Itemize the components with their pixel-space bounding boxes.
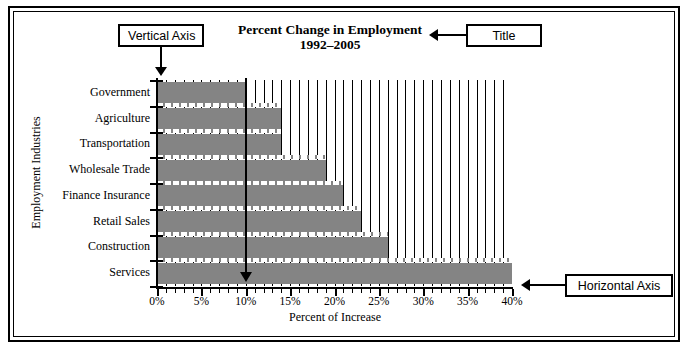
x-axis-minor-tick bbox=[184, 289, 185, 293]
x-axis-minor-tick bbox=[477, 289, 478, 293]
x-axis-minor-tick bbox=[255, 289, 256, 293]
x-axis-minor-tick bbox=[485, 289, 486, 293]
callout-horizontal-axis: Horizontal Axis bbox=[565, 274, 673, 297]
bar bbox=[157, 237, 388, 258]
bar bbox=[157, 211, 361, 232]
x-axis-minor-tick bbox=[503, 289, 504, 293]
x-axis-minor-tick bbox=[397, 289, 398, 293]
x-axis-minor-tick bbox=[459, 289, 460, 293]
gridline bbox=[494, 80, 495, 286]
gridline bbox=[441, 80, 442, 286]
x-axis-minor-tick bbox=[370, 289, 371, 293]
x-axis-minor-tick bbox=[228, 289, 229, 293]
callout-vertical-axis: Vertical Axis bbox=[118, 24, 204, 47]
title-arrow-head bbox=[429, 29, 438, 41]
y-axis-tick bbox=[150, 260, 163, 262]
x-axis-tick-label: 35% bbox=[448, 295, 488, 307]
x-axis-minor-tick bbox=[175, 289, 176, 293]
x-axis-tick-label: 5% bbox=[181, 295, 221, 307]
y-axis-tick bbox=[150, 80, 163, 82]
y-axis-category-label: Retail Sales bbox=[0, 214, 150, 229]
x-axis-tick-label: 10% bbox=[226, 295, 266, 307]
x-axis-minor-tick bbox=[441, 289, 442, 293]
bar bbox=[157, 82, 246, 103]
x-axis-minor-tick bbox=[352, 289, 353, 293]
y-axis-category-label: Wholesale Trade bbox=[0, 162, 150, 177]
y-axis-tick bbox=[150, 157, 163, 159]
bar-separator bbox=[157, 206, 361, 210]
y-axis-title: Employment Industries bbox=[29, 73, 44, 273]
vertical-axis-arrow-head bbox=[155, 67, 167, 76]
y-axis-tick bbox=[150, 209, 163, 211]
gridline bbox=[397, 80, 398, 286]
horizontal-axis-arrow-line bbox=[530, 284, 566, 286]
y-axis-tick bbox=[150, 106, 163, 108]
x-axis-minor-tick bbox=[272, 289, 273, 293]
bar-separator bbox=[157, 103, 281, 107]
x-axis-tick-label: 40% bbox=[492, 295, 532, 307]
x-axis-tick-label: 20% bbox=[315, 295, 355, 307]
bar bbox=[157, 160, 326, 181]
x-axis-minor-tick bbox=[326, 289, 327, 293]
gridline bbox=[432, 80, 433, 286]
x-axis-minor-tick bbox=[343, 289, 344, 293]
x-axis-minor-tick bbox=[299, 289, 300, 293]
gridline bbox=[459, 80, 460, 286]
x-axis-minor-tick bbox=[450, 289, 451, 293]
x-axis-minor-tick bbox=[166, 289, 167, 293]
chart-title: Percent Change in Employment 1992–2005 bbox=[215, 22, 445, 52]
y-axis-category-label: Services bbox=[0, 265, 150, 280]
gridline bbox=[388, 80, 389, 286]
y-axis-category-label: Agriculture bbox=[0, 111, 150, 126]
x-axis-minor-tick bbox=[406, 289, 407, 293]
vertical-axis-arrow-line bbox=[160, 47, 162, 69]
x-axis-minor-tick bbox=[210, 289, 211, 293]
bar bbox=[157, 134, 281, 155]
bar-separator bbox=[157, 155, 326, 159]
gridline bbox=[450, 80, 451, 286]
chart-figure: Percent Change in Employment 1992–2005 0… bbox=[0, 0, 688, 349]
y-axis-tick bbox=[150, 132, 163, 134]
bar-separator bbox=[157, 258, 512, 262]
y-axis-category-label: Transportation bbox=[0, 136, 150, 151]
x-axis-tick-label: 30% bbox=[403, 295, 443, 307]
gridline bbox=[468, 80, 469, 286]
x-axis-tick-label: 25% bbox=[359, 295, 399, 307]
plot-pointer-arrow-line bbox=[245, 78, 247, 274]
gridline bbox=[405, 80, 406, 286]
horizontal-axis-arrow-head bbox=[521, 279, 530, 291]
gridline bbox=[503, 80, 504, 286]
callout-title: Title bbox=[466, 24, 542, 47]
y-axis-tick bbox=[150, 183, 163, 185]
plot-area bbox=[157, 80, 512, 286]
y-axis-category-label: Government bbox=[0, 85, 150, 100]
x-axis-minor-tick bbox=[432, 289, 433, 293]
x-axis-minor-tick bbox=[281, 289, 282, 293]
x-axis-minor-tick bbox=[388, 289, 389, 293]
x-axis-minor-tick bbox=[414, 289, 415, 293]
x-axis-minor-tick bbox=[193, 289, 194, 293]
x-axis-minor-tick bbox=[219, 289, 220, 293]
bar-separator bbox=[157, 181, 343, 185]
gridline bbox=[423, 80, 424, 286]
bar bbox=[157, 108, 281, 129]
x-axis-minor-tick bbox=[237, 289, 238, 293]
y-axis-category-label: Finance Insurance bbox=[0, 188, 150, 203]
x-axis-minor-tick bbox=[317, 289, 318, 293]
y-axis-tick bbox=[150, 235, 163, 237]
x-axis-title: Percent of Increase bbox=[215, 310, 455, 325]
chart-title-line1: Percent Change in Employment bbox=[238, 22, 422, 37]
chart-title-line2: 1992–2005 bbox=[215, 37, 445, 52]
x-axis-tick-label: 15% bbox=[270, 295, 310, 307]
y-axis-tick bbox=[150, 286, 163, 288]
gridline bbox=[414, 80, 415, 286]
plot-pointer-arrow-head bbox=[240, 272, 252, 282]
y-axis-category-labels: GovernmentAgricultureTransportationWhole… bbox=[0, 0, 150, 349]
bar bbox=[157, 185, 343, 206]
x-axis-minor-tick bbox=[264, 289, 265, 293]
bar bbox=[157, 263, 512, 284]
x-axis-minor-tick bbox=[361, 289, 362, 293]
gridline bbox=[477, 80, 478, 286]
gridline bbox=[485, 80, 486, 286]
title-arrow-line bbox=[437, 34, 467, 36]
